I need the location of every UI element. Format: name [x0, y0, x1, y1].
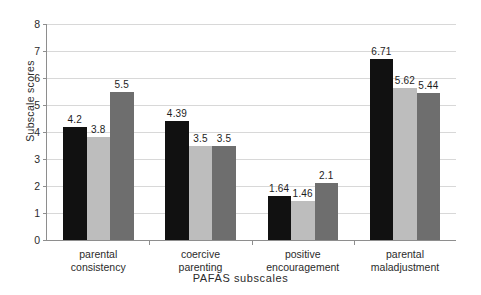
y-axis-tick-label: 5 [34, 99, 40, 111]
x-axis-tick-mark [252, 240, 253, 245]
y-axis-tick-mark [43, 186, 47, 187]
bar: 5.5 [110, 92, 134, 241]
x-axis-title: PAFAS subscales [0, 272, 481, 284]
y-axis-tick-label: 4 [34, 126, 40, 138]
bar-value-label: 4.2 [67, 114, 82, 125]
bar: 5.62 [393, 88, 417, 240]
y-axis-tick-mark [43, 78, 47, 79]
x-axis-category-label-line: parental [71, 248, 126, 261]
y-axis-tick-mark [43, 51, 47, 52]
bar: 6.71 [370, 59, 394, 240]
bar: 3.8 [87, 137, 111, 240]
bar-value-label: 1.64 [269, 183, 289, 194]
bar-value-label: 2.1 [319, 170, 334, 181]
plot-area: 0123456784.23.85.5parentalconsistency4.3… [46, 24, 456, 241]
y-axis-tick-label: 1 [34, 207, 40, 219]
bar-chart: Subscale scores 0123456784.23.85.5parent… [0, 0, 481, 295]
bar-value-label: 3.5 [217, 133, 232, 144]
y-axis-tick-mark [43, 159, 47, 160]
bar-value-label: 3.5 [193, 133, 208, 144]
bar: 3.5 [212, 146, 236, 241]
x-axis-tick-mark [354, 240, 355, 245]
y-axis-tick-label: 0 [34, 234, 40, 246]
bar-value-label: 6.71 [371, 46, 391, 57]
x-axis-category-label-line: parental [371, 248, 439, 261]
x-axis-category-label: coerciveparenting [179, 248, 223, 274]
y-axis-tick-label: 6 [34, 72, 40, 84]
bar: 2.1 [315, 183, 339, 240]
bar-value-label: 3.8 [91, 124, 106, 135]
y-axis-tick-label: 7 [34, 45, 40, 57]
y-axis-tick-mark [43, 105, 47, 106]
x-axis-category-label: parentalconsistency [71, 248, 126, 274]
x-axis-category-label: parentalmaladjustment [371, 248, 439, 274]
y-axis-tick-mark [43, 213, 47, 214]
bar: 4.2 [63, 127, 87, 240]
y-axis-tick-label: 3 [34, 153, 40, 165]
y-axis-tick-mark [43, 240, 47, 241]
gridline [47, 24, 456, 25]
bar-value-label: 5.44 [418, 80, 438, 91]
x-axis-category-label: positiveencouragement [266, 248, 339, 274]
bar: 1.64 [268, 196, 292, 240]
bar-value-label: 4.39 [167, 108, 187, 119]
y-axis-tick-label: 2 [34, 180, 40, 192]
y-axis-tick-mark [43, 24, 47, 25]
y-axis-tick-mark [43, 132, 47, 133]
bar: 4.39 [165, 121, 189, 240]
bar-value-label: 1.46 [293, 188, 313, 199]
bar-value-label: 5.62 [395, 75, 415, 86]
bar: 5.44 [417, 93, 441, 240]
bar: 3.5 [189, 146, 213, 241]
x-axis-category-label-line: positive [266, 248, 339, 261]
bar-value-label: 5.5 [114, 79, 129, 90]
y-axis-tick-label: 8 [34, 18, 40, 30]
bar: 1.46 [291, 201, 315, 240]
gridline [47, 51, 456, 52]
x-axis-tick-mark [149, 240, 150, 245]
x-axis-category-label-line: coercive [179, 248, 223, 261]
